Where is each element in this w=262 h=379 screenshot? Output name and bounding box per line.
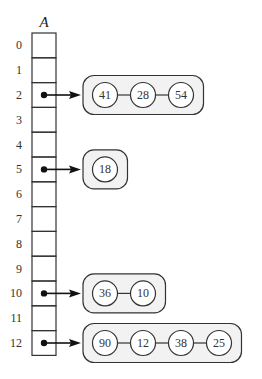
slot-index: 1	[16, 63, 22, 77]
array-slot-7	[32, 207, 56, 232]
node-value: 12	[137, 336, 149, 350]
array-indices: 0123456789101112	[10, 38, 22, 350]
node-value: 90	[99, 336, 111, 350]
array-slot-0	[32, 33, 56, 58]
slot-index: 2	[16, 88, 22, 102]
array-slots	[32, 33, 56, 355]
node-value: 54	[175, 88, 187, 102]
node-value: 36	[99, 286, 111, 300]
chain-slot-5: 18	[41, 150, 128, 189]
slot-index: 4	[16, 138, 22, 152]
array-slot-4	[32, 132, 56, 157]
array-slot-6	[32, 182, 56, 207]
chain-slot-2: 412854	[41, 76, 204, 115]
array-slot-1	[32, 58, 56, 83]
slot-index: 3	[16, 113, 22, 127]
array-slot-8	[32, 231, 56, 256]
slot-index: 12	[10, 336, 22, 350]
array-title: A	[38, 14, 49, 30]
node-value: 38	[175, 336, 187, 350]
slot-index: 5	[16, 162, 22, 176]
slot-index: 7	[16, 212, 22, 226]
array-slot-3	[32, 107, 56, 132]
node-value: 10	[137, 286, 149, 300]
node-value: 25	[213, 336, 225, 350]
array-slot-9	[32, 256, 56, 281]
slot-index: 6	[16, 187, 22, 201]
chains: 41285418361090123825	[41, 76, 242, 363]
slot-index: 11	[10, 311, 22, 325]
hash-table-chaining-diagram: A 0123456789101112 41285418361090123825	[0, 0, 262, 379]
slot-index: 9	[16, 262, 22, 276]
node-value: 41	[99, 88, 111, 102]
slot-index: 0	[16, 38, 22, 52]
slot-index: 8	[16, 237, 22, 251]
chain-slot-10: 3610	[41, 274, 166, 313]
node-value: 28	[137, 88, 149, 102]
node-value: 18	[99, 162, 111, 176]
slot-index: 10	[10, 286, 22, 300]
array-slot-11	[32, 306, 56, 331]
chain-slot-12: 90123825	[41, 324, 242, 363]
